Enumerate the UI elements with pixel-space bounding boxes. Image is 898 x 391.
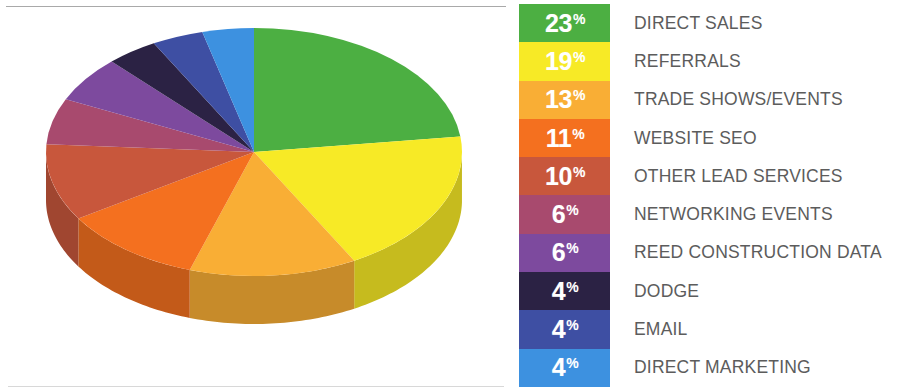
legend: 23% DIRECT SALES 19% REFERRALS 13% TRADE…	[519, 4, 898, 387]
legend-label: NETWORKING EVENTS	[610, 195, 898, 233]
legend-percent: 13%	[545, 87, 584, 112]
legend-percent: 6%	[552, 202, 577, 227]
legend-percent: 4%	[552, 317, 577, 342]
legend-label: REED CONSTRUCTION DATA	[610, 234, 898, 272]
legend-row[interactable]: 6% REED CONSTRUCTION DATA	[519, 234, 898, 272]
legend-row[interactable]: 19% REFERRALS	[519, 42, 898, 80]
legend-swatch: 13%	[519, 81, 610, 119]
pie-chart	[40, 20, 480, 385]
legend-swatch: 23%	[519, 4, 610, 42]
legend-swatch: 10%	[519, 157, 610, 195]
legend-swatch: 4%	[519, 272, 610, 310]
legend-swatch: 4%	[519, 349, 610, 387]
legend-percent: 6%	[552, 240, 577, 265]
legend-swatch: 6%	[519, 234, 610, 272]
legend-percent: 19%	[545, 49, 584, 74]
pie-chart-svg	[40, 20, 480, 385]
legend-label: OTHER LEAD SERVICES	[610, 157, 898, 195]
bottom-divider-rule	[8, 386, 504, 387]
legend-swatch: 19%	[519, 42, 610, 80]
legend-row[interactable]: 6% NETWORKING EVENTS	[519, 195, 898, 233]
legend-swatch: 6%	[519, 195, 610, 233]
legend-swatch: 11%	[519, 119, 610, 157]
legend-row[interactable]: 11% WEBSITE SEO	[519, 119, 898, 157]
legend-label: DODGE	[610, 272, 898, 310]
legend-percent: 4%	[552, 279, 577, 304]
legend-percent: 4%	[552, 355, 577, 380]
legend-swatch: 4%	[519, 310, 610, 348]
legend-label: REFERRALS	[610, 42, 898, 80]
legend-row[interactable]: 23% DIRECT SALES	[519, 4, 898, 42]
legend-percent: 10%	[545, 164, 584, 189]
legend-row[interactable]: 4% DIRECT MARKETING	[519, 349, 898, 387]
legend-row[interactable]: 4% EMAIL	[519, 310, 898, 348]
chart-page: 23% DIRECT SALES 19% REFERRALS 13% TRADE…	[0, 0, 898, 391]
legend-row[interactable]: 13% TRADE SHOWS/EVENTS	[519, 81, 898, 119]
legend-percent: 11%	[546, 126, 583, 151]
legend-label: DIRECT MARKETING	[610, 349, 898, 387]
pie-slice[interactable]	[254, 28, 460, 152]
legend-label: DIRECT SALES	[610, 4, 898, 42]
legend-label: TRADE SHOWS/EVENTS	[610, 81, 898, 119]
pie-top-face	[46, 28, 462, 276]
legend-row[interactable]: 10% OTHER LEAD SERVICES	[519, 157, 898, 195]
legend-label: WEBSITE SEO	[610, 119, 898, 157]
legend-label: EMAIL	[610, 310, 898, 348]
top-divider-rule	[6, 6, 506, 7]
legend-percent: 23%	[545, 11, 584, 36]
legend-row[interactable]: 4% DODGE	[519, 272, 898, 310]
